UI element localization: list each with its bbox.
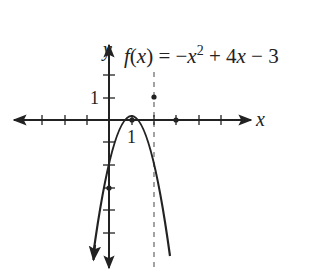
x-tick-label-1: 1 [127, 127, 136, 147]
graph: y x 1 1 f(x) = −x2 + 4x − 3 [0, 0, 311, 277]
marked-points [106, 94, 178, 190]
y-tick-label-1: 1 [90, 88, 99, 108]
x-axis-label: x [255, 108, 265, 130]
arrow-left-end [94, 245, 96, 260]
function-label: f(x) = −x2 + 4x − 3 [124, 43, 279, 68]
y-axis-label: y [101, 38, 112, 61]
